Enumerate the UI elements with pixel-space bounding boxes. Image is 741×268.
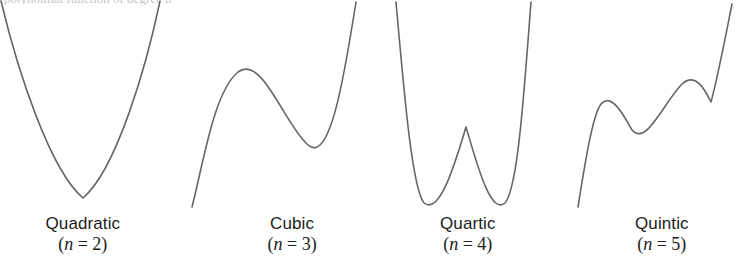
quadratic-curve: [1, 1, 160, 198]
label-quintic-name: Quintic: [635, 213, 689, 234]
label-quartic-degree: (n = 4): [440, 234, 496, 255]
label-cubic-name: Cubic: [268, 213, 317, 234]
label-quadratic: Quadratic (n = 2): [46, 213, 121, 255]
label-quadratic-name: Quadratic: [46, 213, 121, 234]
label-quintic-degree: (n = 5): [635, 234, 689, 255]
label-quintic: Quintic (n = 5): [635, 213, 689, 255]
label-cubic-degree-value: = 3): [283, 234, 317, 254]
label-quadratic-degree-value: = 2): [73, 234, 107, 254]
curve-labels-row: Quadratic (n = 2) Cubic (n = 3) Quartic …: [0, 213, 741, 268]
variable-n-italic: n: [274, 234, 283, 254]
variable-n-italic: n: [64, 234, 73, 254]
quintic-curve: [578, 4, 732, 207]
label-quartic: Quartic (n = 4): [440, 213, 496, 255]
quartic-curve: [396, 2, 531, 205]
variable-n-italic: n: [643, 234, 652, 254]
label-quadratic-degree: (n = 2): [46, 234, 121, 255]
label-cubic: Cubic (n = 3): [268, 213, 317, 255]
polynomial-degree-figure: polynomial function of degree n Quadrati…: [0, 0, 741, 268]
label-quintic-degree-value: = 5): [652, 234, 686, 254]
label-quartic-degree-value: = 4): [458, 234, 492, 254]
variable-n-italic: n: [449, 234, 458, 254]
label-quartic-name: Quartic: [440, 213, 496, 234]
label-cubic-degree: (n = 3): [268, 234, 317, 255]
cubic-curve: [192, 2, 356, 207]
